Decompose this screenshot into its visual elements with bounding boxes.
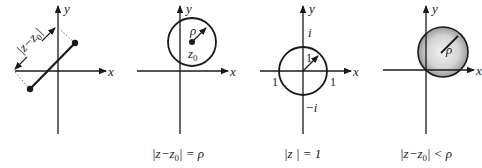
y-axis-label: y <box>184 1 192 16</box>
radius-label: 1 <box>306 51 312 65</box>
caption-open-disk: |z−z0| < ρ <box>400 146 452 163</box>
caption-unit-circle: |z | = 1 <box>284 146 321 161</box>
extension-line <box>57 27 75 43</box>
tick-label-neg-i: −i <box>305 100 318 115</box>
x-axis-label: x <box>352 64 359 79</box>
svg-text:|z−z0|: |z−z0| <box>13 25 46 59</box>
distance-label: |z−z0| <box>13 25 46 59</box>
panel-distance: y x |z−z0| <box>13 1 114 134</box>
y-axis-label: y <box>307 1 315 16</box>
x-axis-label: x <box>475 63 482 78</box>
extension-line <box>14 71 30 89</box>
dimension-arrow <box>15 57 27 69</box>
radius-label: ρ <box>445 42 452 57</box>
panel-open-disk: y x ρ <box>383 1 482 134</box>
radius-label: ρ <box>189 23 196 38</box>
center-label: z0 <box>187 46 198 63</box>
point-z0 <box>27 86 33 92</box>
segment <box>30 43 75 89</box>
tick-label-right-1: 1 <box>330 75 336 89</box>
complex-plane-figure: y x |z−z0| y x ρ z0 y x 1 i − <box>0 0 482 168</box>
panel-unit-circle: y x 1 i −i 1 1 <box>260 1 359 134</box>
caption-circle: |z−z0| = ρ <box>152 146 204 163</box>
tick-label-i: i <box>308 25 312 40</box>
y-axis-label: y <box>62 1 70 16</box>
x-axis-label: x <box>107 64 114 79</box>
point-z <box>72 40 78 46</box>
y-axis-label: y <box>430 1 438 16</box>
tick-label-left-1: 1 <box>272 75 278 89</box>
panel-circle: y x ρ z0 <box>137 1 236 134</box>
x-axis-label: x <box>229 64 236 79</box>
